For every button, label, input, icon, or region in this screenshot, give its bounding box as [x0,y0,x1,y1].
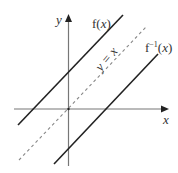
x-axis-label: x [162,112,169,127]
identity-label: y = x [91,44,121,76]
f-inverse-label: f−1(x) [145,40,172,55]
axes [14,14,169,166]
identity-line [19,27,146,160]
f-label: f(x) [92,16,111,31]
origin-point [67,108,69,110]
y-axis-label: y [54,12,62,27]
y-axis-arrow-icon [65,14,72,22]
function-inverse-diagram: y x f(x) y = x f−1(x) [0,0,178,173]
